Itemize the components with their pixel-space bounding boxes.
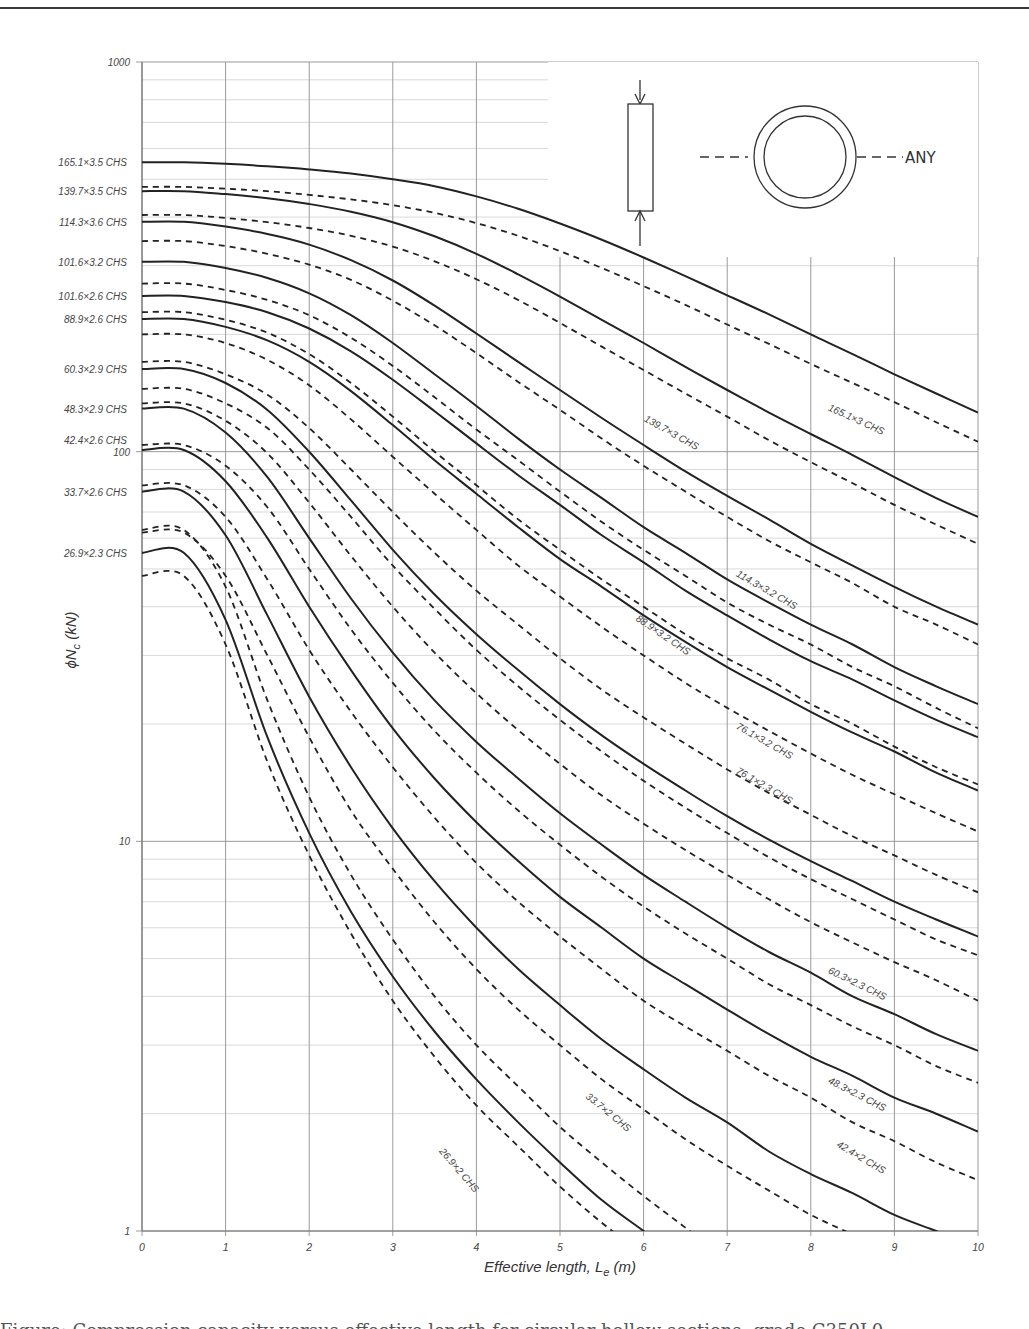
curve-label: 76.1×2.3 CHS — [735, 765, 795, 806]
curve-labels: 165.1×3 CHS139.7×3 CHS114.3×3.2 CHS88.9×… — [437, 402, 889, 1195]
axis-any-label: ANY — [905, 149, 936, 167]
section-label: 101.6×3.2 CHS — [58, 257, 127, 268]
solid-curve — [142, 548, 685, 1262]
dashed-curve — [142, 529, 894, 1254]
inset-diagram: ANY — [548, 62, 978, 257]
x-tick-label: 10 — [972, 1241, 984, 1253]
section-label: 139.7×3.5 CHS — [58, 186, 127, 197]
x-tick-label: 2 — [305, 1241, 312, 1253]
curve-label: 139.7×3 CHS — [643, 413, 701, 452]
section-label: 33.7×2.6 CHS — [64, 487, 127, 498]
y-tick-label: 1 — [124, 1226, 130, 1237]
section-label: 88.9×2.6 CHS — [64, 314, 127, 325]
x-tick-label: 9 — [891, 1241, 897, 1253]
section-label: 165.1×3.5 CHS — [58, 157, 127, 168]
y-tick-label: 100 — [113, 447, 130, 458]
section-label: 60.3×2.9 CHS — [64, 364, 127, 375]
curve-label: 48.3×2.3 CHS — [827, 1075, 889, 1114]
x-tick-label: 3 — [390, 1241, 396, 1253]
x-tick-label: 7 — [724, 1241, 731, 1253]
figure-caption-cropped: Figure: Compression capacity versus effe… — [0, 1322, 1029, 1329]
x-axis-title: Effective length, Le (m) — [484, 1258, 636, 1278]
x-tick-label: 1 — [223, 1241, 229, 1253]
curve-label: 165.1×3 CHS — [827, 402, 887, 437]
x-tick-label: 4 — [473, 1241, 479, 1253]
y-tick-label: 1000 — [108, 57, 131, 68]
section-label: 114.3×3.6 CHS — [59, 217, 127, 228]
x-tick-label: 8 — [808, 1241, 814, 1253]
x-tick-label: 6 — [641, 1241, 647, 1253]
dashed-curve — [142, 526, 727, 1260]
section-label: 48.3×2.9 CHS — [64, 404, 127, 415]
section-label: 42.4×2.6 CHS — [64, 435, 127, 446]
curve-label: 33.7×2 CHS — [584, 1091, 634, 1134]
curve-label: 42.4×2 CHS — [835, 1139, 888, 1177]
section-label: 26.9×2.3 CHS — [63, 548, 127, 559]
y-axis-title: ϕNc (kN) — [62, 611, 82, 668]
y-tick-label: 10 — [119, 836, 131, 847]
column-capacity-chart: ANY 165.1×3 CHS139.7×3 CHS114.3×3.2 CHS8… — [0, 0, 1029, 1329]
curve-label: 26.9×2 CHS — [437, 1145, 482, 1195]
section-label: 101.6×2.6 CHS — [58, 291, 127, 302]
x-tick-label: 0 — [139, 1241, 145, 1253]
column-member-icon — [628, 104, 653, 211]
x-tick-label: 5 — [557, 1241, 563, 1253]
